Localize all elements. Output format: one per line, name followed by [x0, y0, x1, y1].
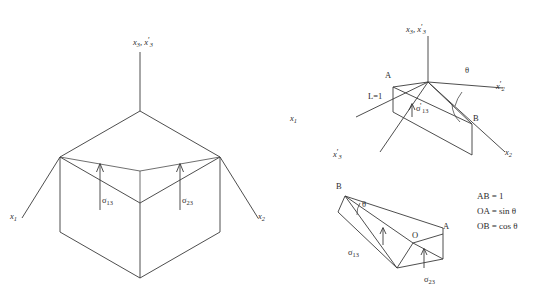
tetra-axis-label-x2: x2: [505, 148, 512, 157]
equation-line-ob: OB = cos θ: [477, 220, 518, 233]
wedge-point-label-O: O: [412, 231, 418, 240]
cube-sigma13-label: σ13: [102, 196, 113, 205]
cube-inner-edges: [60, 157, 220, 203]
tetra-axis-label-x3prime: x'3: [333, 150, 342, 159]
figure-canvas: x3, x'3 x1 x2 σ13 σ23 x3, x'3 A B θ L=1 …: [0, 0, 555, 305]
tetra-point-label-A: A: [385, 71, 391, 80]
tetra-axis-label-x3-x3prime: x3, x'3: [406, 25, 426, 34]
tetra-theta-label: θ: [465, 66, 469, 75]
tetra-sigma13prime-label: σ'13: [416, 104, 428, 113]
tetra-plane: [393, 82, 472, 155]
tetra-axis-label-x2prime: x'2: [496, 82, 505, 91]
tetra-axis-label-x1: x1: [290, 114, 297, 123]
cube-axis-label-x2: x2: [258, 212, 265, 221]
wedge-sigma13-label: σ13: [348, 248, 359, 257]
cube-axis-label-x1: x1: [10, 212, 17, 221]
tetra-length-label: L=1: [368, 92, 382, 101]
equation-line-oa: OA = sin θ: [477, 205, 516, 218]
cube-axis-label-x3: x3, x'3: [133, 38, 153, 47]
wedge-sigma23-arrow: [421, 249, 427, 269]
wedge-sigma23-label: σ23: [424, 275, 435, 284]
tetra-sigma13-arrow: [409, 104, 415, 118]
wedge-theta-label: θ: [362, 200, 366, 209]
wedge-sigma13-arrow: [380, 228, 386, 246]
tetra-theta-arc-b: [452, 104, 460, 122]
tetra-theta-arc: [455, 92, 462, 106]
figure-vector-layer: [0, 0, 555, 305]
wedge-point-label-A: A: [443, 222, 449, 231]
tetra-point-label-B: B: [473, 114, 479, 123]
equation-line-ab: AB = 1: [477, 190, 504, 203]
cube-sigma23-label: σ23: [182, 196, 193, 205]
wedge-point-label-B: B: [336, 182, 342, 191]
